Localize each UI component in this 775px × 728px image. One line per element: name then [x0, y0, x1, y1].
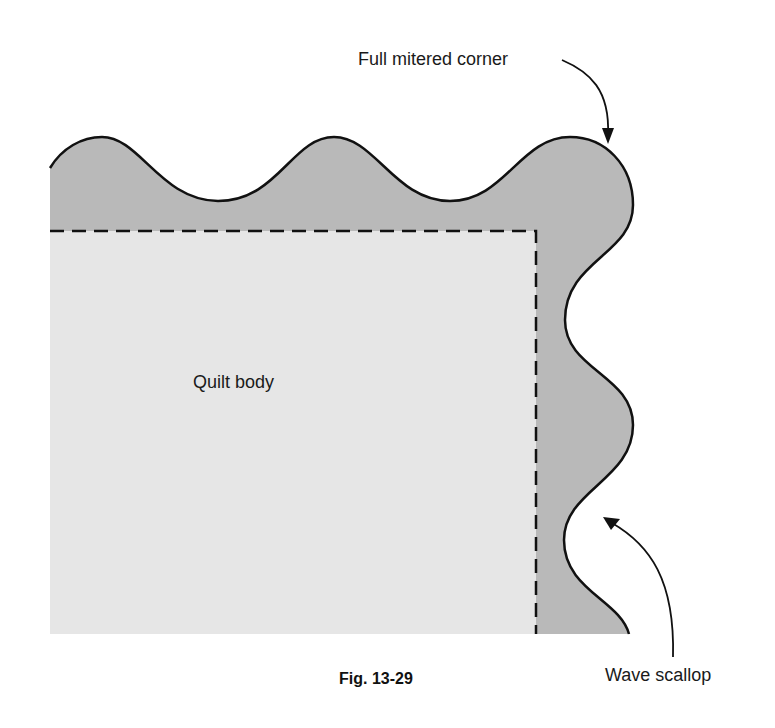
scallop-arrowhead-icon [603, 517, 620, 530]
quilt-body [50, 231, 536, 634]
corner-arrow [562, 60, 608, 135]
figure-caption: Fig. 13-29 [339, 670, 413, 688]
quilt-diagram [0, 0, 775, 728]
label-wave-scallop: Wave scallop [605, 665, 711, 686]
label-full-mitered-corner: Full mitered corner [358, 49, 508, 70]
corner-arrowhead-icon [602, 128, 614, 144]
figure-canvas: Full mitered corner Quilt body Wave scal… [0, 0, 775, 728]
label-quilt-body: Quilt body [193, 372, 274, 393]
scallop-arrow [612, 523, 673, 657]
